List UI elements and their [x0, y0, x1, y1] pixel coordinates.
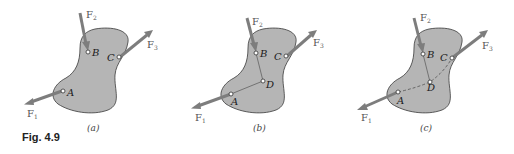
svg-text:1: 1 — [34, 113, 38, 120]
panel-label-b: (b) — [253, 123, 266, 133]
label-a: A — [230, 96, 238, 107]
label-f3: F — [482, 40, 489, 51]
panel-a: B C A F 1 F 2 F 3 (a) — [24, 9, 158, 133]
label-b: B — [91, 47, 99, 58]
rigid-body — [53, 28, 128, 113]
label-b: B — [259, 48, 267, 59]
label-a: A — [66, 87, 74, 98]
label-c: C — [440, 52, 448, 63]
svg-text:3: 3 — [154, 44, 158, 51]
point-b — [254, 51, 258, 55]
label-b: B — [426, 49, 434, 60]
point-a — [396, 90, 400, 94]
svg-text:3: 3 — [320, 42, 324, 49]
panel-b: B C D A F 1 F 2 F 3 (b) — [191, 16, 324, 133]
point-c — [284, 54, 288, 58]
svg-text:2: 2 — [427, 17, 431, 24]
point-d — [261, 79, 265, 83]
label-f3: F — [147, 39, 154, 50]
label-f2: F — [86, 9, 93, 20]
label-c: C — [107, 52, 115, 63]
svg-text:2: 2 — [93, 14, 97, 21]
svg-text:3: 3 — [489, 45, 493, 52]
label-c: C — [274, 51, 282, 62]
label-a: A — [396, 95, 404, 106]
figure-caption: Fig. 4.9 — [22, 131, 60, 143]
label-f2: F — [420, 12, 427, 23]
panel-c: B C D A F 1 F 2 F 3 (c) — [357, 12, 493, 133]
point-c — [450, 56, 454, 60]
point-c — [117, 55, 121, 59]
panel-label-a: (a) — [87, 123, 100, 133]
point-b — [421, 52, 425, 56]
label-d: D — [265, 79, 274, 90]
point-a — [61, 89, 65, 93]
panel-label-c: (c) — [420, 123, 433, 133]
figure-canvas: B C A F 1 F 2 F 3 (a) B C D A — [0, 0, 514, 154]
svg-text:1: 1 — [202, 117, 206, 124]
label-f1: F — [361, 112, 368, 123]
point-b — [86, 50, 90, 54]
label-d: D — [426, 82, 435, 93]
svg-text:2: 2 — [259, 21, 263, 28]
label-f1: F — [27, 108, 34, 119]
svg-text:1: 1 — [368, 117, 372, 124]
label-f2: F — [252, 16, 259, 27]
label-f3: F — [313, 37, 320, 48]
label-f1: F — [195, 112, 202, 123]
